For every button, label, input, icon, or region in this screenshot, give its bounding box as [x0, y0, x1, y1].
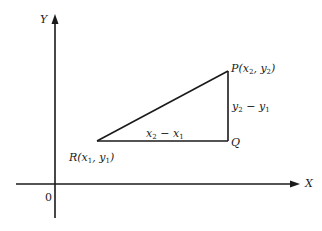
delta-y-label: y2 − y1 — [232, 101, 270, 114]
point-q-label: Q — [231, 137, 240, 148]
point-p-label: P(x2, y2) — [231, 63, 275, 76]
x-axis-label: X — [305, 178, 313, 189]
origin-label: 0 — [45, 192, 52, 203]
delta-x-label: x2 − x1 — [146, 128, 184, 141]
y-axis-arrowhead-icon — [52, 14, 59, 24]
x-axis-arrowhead-icon — [290, 181, 300, 188]
y-axis-label: Y — [40, 14, 47, 25]
point-r-label: R(x1, y1) — [69, 152, 114, 165]
